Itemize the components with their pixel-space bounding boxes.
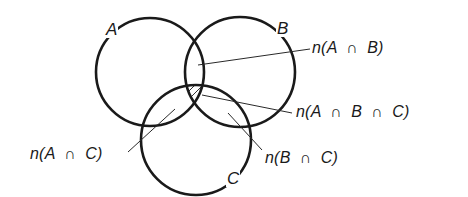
venn-diagram: A B C n(A ∩ B) n(A ∩ B ∩ C) n(A ∩ C) n(B… [0,0,468,197]
leader-line-abc [202,95,292,113]
region-label-b-intersect-c: n(B ∩ C) [265,150,338,166]
set-label-b: B [276,20,289,37]
leader-line-ac [128,109,175,152]
region-label-a-intersect-b: n(A ∩ B) [312,40,384,56]
leader-line-bc [228,113,262,150]
region-label-a-intersect-b-intersect-c: n(A ∩ B ∩ C) [296,104,410,120]
set-label-a: A [105,21,118,38]
venn-diagram-graphic [0,0,468,197]
set-label-c: C [226,170,240,187]
region-label-a-intersect-c: n(A ∩ C) [30,146,102,162]
